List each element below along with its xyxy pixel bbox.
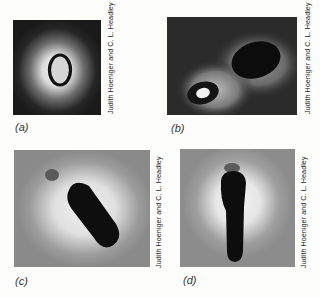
photo-credit-d: Judith Hoeniger and C. L. Headley xyxy=(299,156,308,268)
panel-label-c: (c) xyxy=(15,275,28,287)
photo-credit-c: Judith Hoeniger and C. L. Headley xyxy=(154,156,163,268)
micrograph-b xyxy=(167,17,297,115)
panel-label-d: (d) xyxy=(183,274,196,286)
micrograph-c xyxy=(14,150,150,267)
photo-credit-b: Judith Hoeniger and C. L. Headley xyxy=(303,2,312,114)
micrograph-d xyxy=(180,149,295,267)
micrograph-a xyxy=(13,20,101,115)
photo-credit-a: Judith Hoeniger and C. L. Headley xyxy=(106,2,115,114)
panel-label-b: (b) xyxy=(171,122,184,134)
panel-label-a: (a) xyxy=(15,121,28,133)
